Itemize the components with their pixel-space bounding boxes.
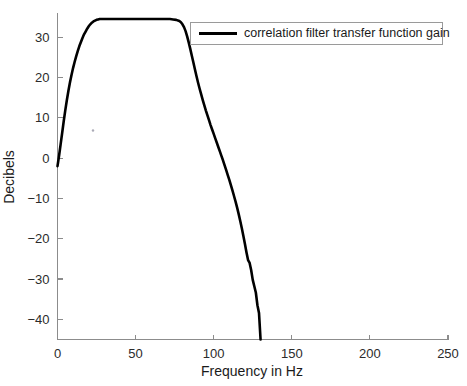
x-tick-label: 0 xyxy=(54,346,61,361)
y-tick-label: 20 xyxy=(35,70,49,85)
x-tick-label: 100 xyxy=(203,346,225,361)
x-tick-label: 200 xyxy=(359,346,381,361)
y-tick-label: 0 xyxy=(42,151,49,166)
y-tick-label: −10 xyxy=(27,191,49,206)
x-axis-title: Frequency in Hz xyxy=(201,363,303,379)
y-tick-label: −30 xyxy=(27,272,49,287)
legend-label: correlation filter transfer function gai… xyxy=(244,26,450,40)
y-tick-label: −20 xyxy=(27,231,49,246)
y-tick-label: 30 xyxy=(35,30,49,45)
y-axis-title: Decibels xyxy=(1,150,17,204)
y-tick-label: −40 xyxy=(27,312,49,327)
line-chart: −40−30−20−100102030 050100150200250 Freq… xyxy=(0,0,467,386)
x-tick-label: 250 xyxy=(437,346,459,361)
y-tick-label: 10 xyxy=(35,110,49,125)
x-tick-label: 50 xyxy=(128,346,142,361)
chart-figure: −40−30−20−100102030 050100150200250 Freq… xyxy=(0,0,467,386)
x-tick-label: 150 xyxy=(281,346,303,361)
legend: correlation filter transfer function gai… xyxy=(191,23,450,45)
stray-mark xyxy=(92,129,94,131)
